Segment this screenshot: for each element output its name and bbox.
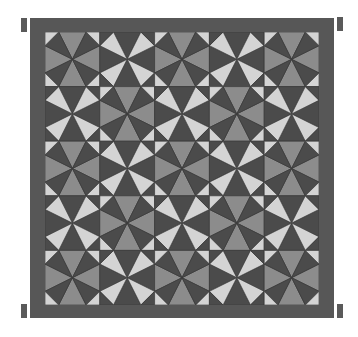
quilt-pattern-grid (45, 32, 319, 305)
corner-tab-top-right (337, 17, 343, 31)
corner-tab-top-left (21, 18, 27, 32)
corner-tab-bottom-left (21, 304, 27, 318)
corner-tab-bottom-right (337, 304, 343, 318)
